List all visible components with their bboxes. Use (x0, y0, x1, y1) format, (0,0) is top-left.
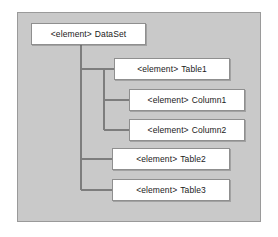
diagram-canvas: <element> DataSet <element> Table1 <elem… (0, 0, 278, 237)
node-table3-tag: <element> (136, 185, 177, 195)
node-table3[interactable]: <element> Table3 (112, 179, 230, 201)
node-column2[interactable]: <element> Column2 (129, 119, 245, 141)
node-table2-name: Table2 (180, 154, 206, 164)
node-table1-name: Table1 (181, 64, 207, 74)
node-dataset[interactable]: <element> DataSet (31, 23, 146, 45)
node-column2-name: Column2 (192, 125, 227, 135)
node-column2-tag: <element> (148, 125, 189, 135)
node-table1[interactable]: <element> Table1 (114, 58, 230, 80)
node-column1[interactable]: <element> Column1 (129, 89, 245, 111)
node-column1-tag: <element> (148, 95, 189, 105)
node-column1-name: Column1 (192, 95, 227, 105)
node-table3-name: Table3 (180, 185, 206, 195)
node-table1-tag: <element> (137, 64, 178, 74)
node-dataset-name: DataSet (95, 29, 126, 39)
node-table2-tag: <element> (136, 154, 177, 164)
node-table2[interactable]: <element> Table2 (112, 148, 230, 170)
node-dataset-tag: <element> (51, 29, 92, 39)
